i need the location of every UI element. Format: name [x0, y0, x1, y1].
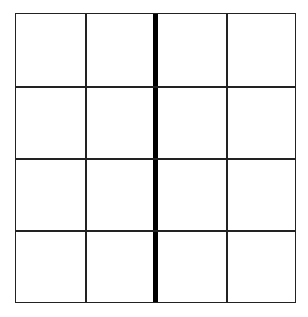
row-line-3 — [16, 230, 295, 232]
row-line-2 — [16, 158, 295, 160]
row-line-1 — [16, 86, 295, 88]
four-by-four-grid — [15, 13, 296, 303]
